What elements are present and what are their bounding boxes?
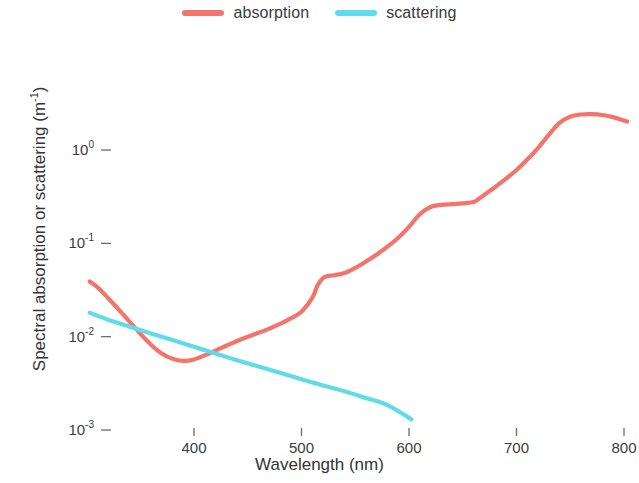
x-tick-label: 600 bbox=[396, 439, 421, 456]
chart-figure: 400500600700800 10010-110-210-3 absorpti… bbox=[0, 0, 639, 483]
series-line-absorption bbox=[90, 114, 627, 361]
x-tick-label: 500 bbox=[289, 439, 314, 456]
y-axis-title: Spectral absorption or scattering (m-1) bbox=[28, 14, 50, 444]
y-axis-tick-labels: 10010-110-210-3 bbox=[68, 139, 94, 438]
plot-area: 400500600700800 10010-110-210-3 bbox=[0, 0, 639, 483]
x-axis-tick-labels: 400500600700800 bbox=[181, 439, 636, 456]
x-tick-label: 400 bbox=[181, 439, 206, 456]
series-line-scattering bbox=[90, 313, 412, 420]
data-series-lines bbox=[90, 114, 627, 419]
x-axis-title: Wavelength (nm) bbox=[0, 455, 639, 475]
y-tick-label: 10-3 bbox=[68, 419, 94, 438]
x-tick-label: 700 bbox=[504, 439, 529, 456]
y-tick-label: 10-2 bbox=[68, 326, 94, 345]
y-axis-title-exponent: -1 bbox=[28, 92, 40, 102]
y-tick-label: 100 bbox=[72, 139, 95, 158]
x-tick-label: 800 bbox=[611, 439, 636, 456]
x-axis-tick-marks bbox=[194, 428, 624, 436]
y-axis-title-suffix: ) bbox=[30, 86, 49, 92]
y-axis-title-main: Spectral absorption or scattering (m bbox=[30, 102, 49, 371]
y-tick-label: 10-1 bbox=[68, 232, 94, 251]
